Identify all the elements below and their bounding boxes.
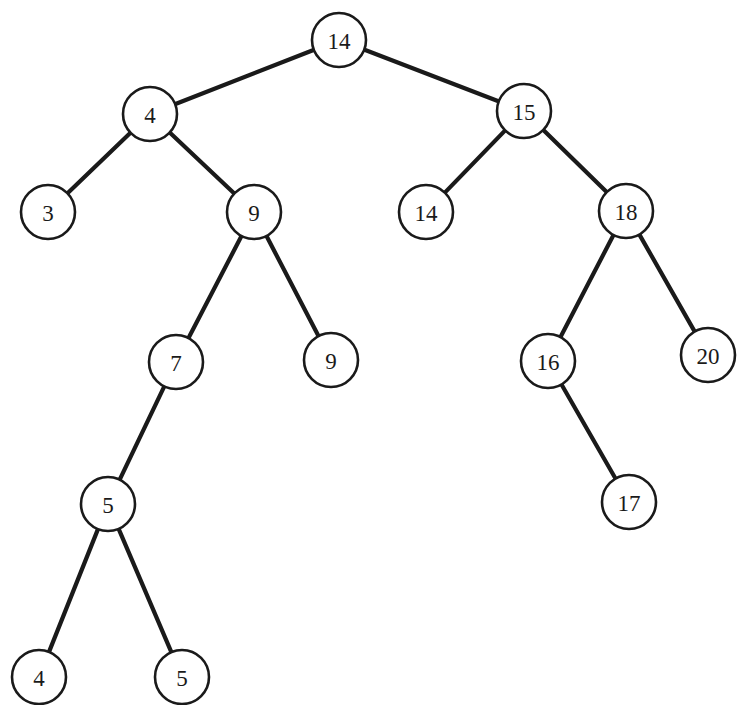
tree-node: 5 xyxy=(155,650,209,704)
tree-node: 15 xyxy=(497,84,551,138)
tree-node-label: 7 xyxy=(170,351,182,376)
tree-node: 9 xyxy=(227,185,281,239)
tree-node-label: 14 xyxy=(415,201,439,226)
tree-node: 9 xyxy=(304,333,358,387)
tree-node-label: 4 xyxy=(33,666,45,691)
tree-edge xyxy=(67,132,132,194)
tree-node-label: 14 xyxy=(328,29,352,54)
binary-tree-diagram: 1441539141879162051745 xyxy=(0,0,756,705)
tree-edge xyxy=(639,234,695,333)
tree-node-label: 20 xyxy=(697,344,720,369)
tree-edge xyxy=(444,130,506,194)
tree-node-label: 16 xyxy=(537,350,560,375)
tree-node: 14 xyxy=(399,185,453,239)
tree-node: 14 xyxy=(312,13,366,67)
tree-node-label: 5 xyxy=(102,493,114,518)
tree-node: 4 xyxy=(12,650,66,704)
tree-node-label: 9 xyxy=(325,349,337,374)
tree-edge xyxy=(560,234,614,338)
tree-node: 20 xyxy=(681,328,735,382)
node-layer: 1441539141879162051745 xyxy=(12,13,735,704)
tree-edge xyxy=(49,528,99,653)
tree-edge xyxy=(118,528,172,653)
tree-node-label: 17 xyxy=(618,491,641,516)
tree-node-label: 5 xyxy=(176,666,188,691)
tree-edge xyxy=(266,235,319,337)
tree-node: 7 xyxy=(149,335,203,389)
tree-node-label: 18 xyxy=(615,200,638,225)
tree-edge xyxy=(119,385,165,480)
tree-node-label: 4 xyxy=(144,103,156,128)
tree-node: 3 xyxy=(21,185,75,239)
tree-node: 5 xyxy=(81,477,135,531)
tree-node-label: 9 xyxy=(248,201,260,226)
tree-node-label: 15 xyxy=(513,100,536,125)
tree-node-label: 3 xyxy=(42,201,54,226)
tree-edge xyxy=(169,132,235,194)
tree-edge xyxy=(188,235,242,339)
tree-node: 17 xyxy=(602,475,656,529)
tree-canvas: 1441539141879162051745 xyxy=(0,0,756,705)
tree-node: 16 xyxy=(521,334,575,388)
tree-edge xyxy=(363,49,499,101)
tree-edge xyxy=(543,129,608,193)
tree-node: 18 xyxy=(599,184,653,238)
tree-node: 4 xyxy=(123,87,177,141)
tree-edge xyxy=(174,49,315,104)
tree-edge xyxy=(561,384,616,480)
